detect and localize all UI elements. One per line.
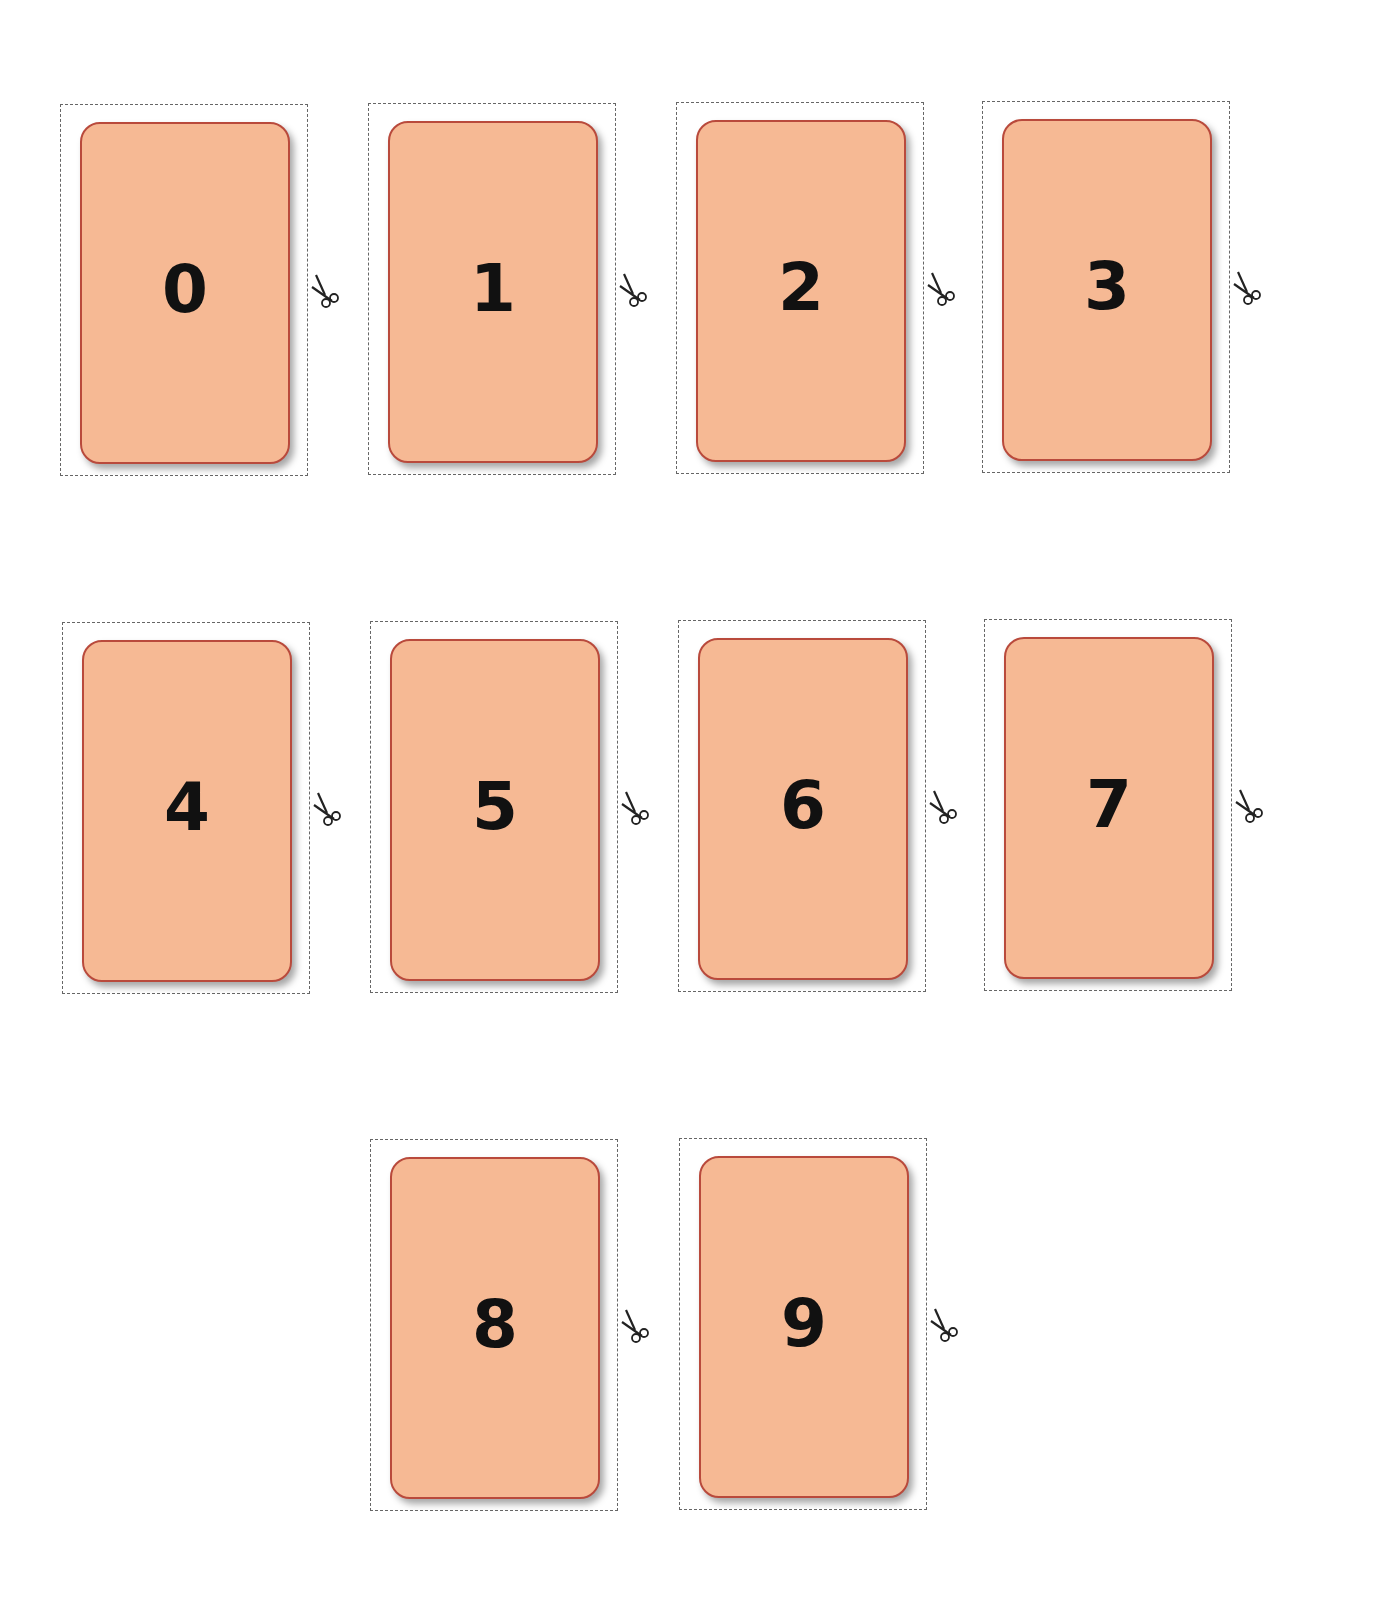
card-number: 9 [781,1285,827,1362]
cut-line-box-7: 7 [984,619,1232,991]
number-card-5: 5 [390,639,600,981]
scissors-icon [618,272,648,308]
scissors-icon [620,1308,650,1344]
cut-line-box-3: 3 [982,101,1230,473]
card-number: 5 [472,768,518,845]
scissors-icon [312,791,342,827]
card-number: 8 [472,1286,518,1363]
number-card-2: 2 [696,120,906,462]
number-card-8: 8 [390,1157,600,1499]
number-card-4: 4 [82,640,292,982]
scissors-icon [310,273,340,309]
number-card-0: 0 [80,122,290,464]
scissors-icon [929,1307,959,1343]
card-number: 0 [162,251,208,328]
card-number: 7 [1086,766,1132,843]
scissors-icon [928,789,958,825]
card-number: 6 [780,767,826,844]
cut-line-box-5: 5 [370,621,618,993]
card-number: 2 [778,249,824,326]
scissors-icon [1234,788,1264,824]
scissors-icon [1232,270,1262,306]
cut-line-box-0: 0 [60,104,308,476]
scissors-icon [620,790,650,826]
number-card-6: 6 [698,638,908,980]
number-card-3: 3 [1002,119,1212,461]
cut-line-box-8: 8 [370,1139,618,1511]
card-number: 3 [1084,248,1130,325]
scissors-icon [926,271,956,307]
number-card-1: 1 [388,121,598,463]
number-card-9: 9 [699,1156,909,1498]
cut-line-box-4: 4 [62,622,310,994]
number-card-7: 7 [1004,637,1214,979]
card-number: 1 [470,250,516,327]
card-number: 4 [164,769,210,846]
cut-line-box-2: 2 [676,102,924,474]
cut-line-box-9: 9 [679,1138,927,1510]
cut-line-box-1: 1 [368,103,616,475]
cut-line-box-6: 6 [678,620,926,992]
